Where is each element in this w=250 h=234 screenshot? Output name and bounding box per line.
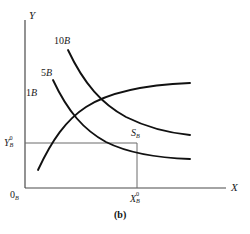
y-tick-sub: B [10,142,14,148]
figure-panel-b: Y X 0B 10B 5B 1B SB Y0B X0B (b) [0,0,250,234]
origin-label-sub: B [15,194,19,201]
x-axis-label: X [231,182,238,193]
curve-label-10b-sym: B [64,35,70,46]
point-label-sb-sub: B [136,132,140,139]
y-tick-label-yb0: Y0B [4,136,15,148]
curve-label-10b-num: 10 [54,35,64,46]
x-tick-label-xb0: X0B [130,192,141,204]
x-tick-sub: B [136,198,140,204]
curve-label-5b-sym: B [46,67,52,78]
origin-label: 0B [10,190,19,200]
curve-label-10b: 10B [54,36,70,46]
figure-caption: (b) [114,209,126,220]
indifference-curve-chart [0,0,250,234]
curve-label-1b-sym: B [31,87,37,98]
curve-label-1b: 1B [26,88,37,98]
point-label-sb: SB [131,128,140,138]
curve-label-5b: 5B [41,68,52,78]
y-axis-label: Y [29,10,35,21]
indifference-curve-10b [68,50,190,135]
